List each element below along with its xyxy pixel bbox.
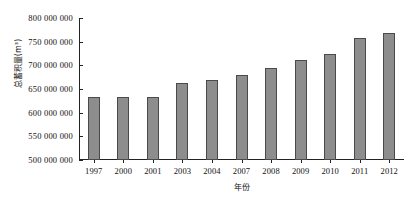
x-axis-tick-mark — [94, 160, 95, 163]
bar-slot — [374, 18, 404, 160]
x-tick-slot — [138, 160, 168, 164]
x-tick-slot — [227, 160, 257, 164]
x-axis-tick-label: 2004 — [197, 166, 227, 176]
x-tick-slot — [286, 160, 316, 164]
x-tick-slot — [345, 160, 375, 164]
x-axis-tick-label: 2001 — [138, 166, 168, 176]
x-axis-tick-label: 2012 — [374, 166, 404, 176]
bar-slot — [227, 18, 257, 160]
y-axis-tick-label: 800 000 000 — [0, 13, 79, 23]
x-axis-tick-mark — [389, 160, 390, 163]
x-axis-tick-mark — [212, 160, 213, 163]
x-axis-title: 年份 — [79, 181, 404, 192]
x-axis-tick-label: 2003 — [168, 166, 198, 176]
bar — [236, 75, 248, 160]
bar-slot — [197, 18, 227, 160]
bar-slot — [79, 18, 109, 160]
x-axis-tick-marks — [79, 160, 404, 164]
x-axis-tick-mark — [123, 160, 124, 163]
x-axis-tick-label: 2008 — [256, 166, 286, 176]
bar-slot — [138, 18, 168, 160]
x-axis-tick-labels: 1997200020012003200420072008200920102011… — [79, 166, 404, 176]
y-axis-tick-label: 550 000 000 — [0, 131, 79, 141]
bar-series — [79, 18, 404, 160]
x-axis-tick-mark — [301, 160, 302, 163]
y-axis-tick-label: 500 000 000 — [0, 155, 79, 165]
bar — [88, 97, 100, 160]
x-axis-tick-mark — [153, 160, 154, 163]
x-axis-tick-mark — [182, 160, 183, 163]
x-axis-tick-label: 2009 — [286, 166, 316, 176]
x-axis-tick-label: 2010 — [315, 166, 345, 176]
bar — [117, 97, 129, 160]
y-axis-tick-label: 650 000 000 — [0, 84, 79, 94]
bar — [354, 38, 366, 160]
x-tick-slot — [374, 160, 404, 164]
x-axis-tick-label: 1997 — [79, 166, 109, 176]
bar-slot — [345, 18, 375, 160]
bar — [176, 83, 188, 160]
x-tick-slot — [79, 160, 109, 164]
x-axis-tick-mark — [242, 160, 243, 163]
bar — [295, 60, 307, 160]
x-axis-tick-mark — [360, 160, 361, 163]
y-axis-tick-label: 750 000 000 — [0, 37, 79, 47]
y-axis-tick-label: 600 000 000 — [0, 108, 79, 118]
bar-chart: 总蓄积量(m³) 800 000 000750 000 000700 000 0… — [0, 0, 415, 201]
bar-slot — [256, 18, 286, 160]
bar-slot — [168, 18, 198, 160]
bar-slot — [315, 18, 345, 160]
x-tick-slot — [315, 160, 345, 164]
bar — [265, 68, 277, 160]
x-axis-tick-mark — [271, 160, 272, 163]
x-tick-slot — [109, 160, 139, 164]
x-tick-slot — [197, 160, 227, 164]
y-axis-tick-label: 700 000 000 — [0, 60, 79, 70]
bar-slot — [109, 18, 139, 160]
bar-slot — [286, 18, 316, 160]
x-tick-slot — [256, 160, 286, 164]
bar — [383, 33, 395, 160]
bar — [324, 54, 336, 160]
x-axis-tick-label: 2000 — [109, 166, 139, 176]
x-axis-tick-label: 2011 — [345, 166, 375, 176]
bar — [206, 80, 218, 160]
x-axis-tick-label: 2007 — [227, 166, 257, 176]
x-axis-tick-mark — [330, 160, 331, 163]
x-tick-slot — [168, 160, 198, 164]
bar — [147, 97, 159, 160]
